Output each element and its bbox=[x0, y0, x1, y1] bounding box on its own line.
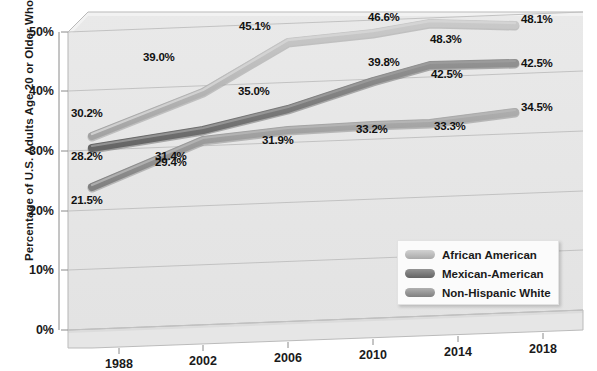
label-ma-2010: 39.8% bbox=[368, 56, 400, 68]
label-ma-2012: 42.5% bbox=[431, 68, 463, 80]
label-ma-2006: 35.0% bbox=[238, 85, 270, 97]
x-tick-2010: 2010 bbox=[343, 348, 403, 362]
label-nw-2002: 29.4% bbox=[155, 156, 187, 168]
x-tick-2002: 2002 bbox=[173, 354, 233, 368]
y-tick-20: 20% bbox=[8, 204, 54, 218]
label-aa-2016: 48.1% bbox=[521, 13, 553, 25]
y-tick-0: 0% bbox=[8, 323, 54, 337]
legend-swatch-african-american bbox=[405, 250, 435, 259]
y-axis-title: Percentage of U.S. Adults Age 20 or Olde… bbox=[23, 11, 35, 261]
x-tick-1988: 1988 bbox=[89, 357, 149, 371]
legend-label-african-american: African American bbox=[442, 249, 537, 261]
legend-swatch-non-hispanic-white bbox=[405, 288, 435, 297]
label-nw-2016: 34.5% bbox=[521, 101, 553, 113]
legend-item-non-hispanic-white[interactable]: Non-Hispanic White bbox=[405, 284, 551, 301]
legend-item-mexican-american[interactable]: Mexican-American bbox=[405, 265, 544, 282]
label-nw-1988: 21.5% bbox=[71, 194, 103, 206]
y-tick-40: 40% bbox=[8, 84, 54, 98]
y-tick-30: 30% bbox=[8, 144, 54, 158]
obesity-trend-chart: Percentage of U.S. Adults Age 20 or Olde… bbox=[0, 0, 597, 371]
label-nw-2010: 33.2% bbox=[356, 123, 388, 135]
label-aa-1988: 30.2% bbox=[71, 107, 103, 119]
label-ma-2016: 42.5% bbox=[521, 57, 553, 69]
chart-canvas bbox=[0, 0, 597, 371]
y-tick-10: 10% bbox=[8, 263, 54, 277]
y-axis-ticks bbox=[59, 32, 68, 330]
legend-label-non-hispanic-white: Non-Hispanic White bbox=[442, 287, 551, 299]
y-tick-50: 50% bbox=[8, 25, 54, 39]
legend: African American Mexican-American Non-Hi… bbox=[397, 240, 559, 305]
legend-item-african-american[interactable]: African American bbox=[405, 246, 537, 263]
label-nw-2006: 31.9% bbox=[262, 134, 294, 146]
legend-swatch-mexican-american bbox=[405, 269, 435, 278]
label-ma-1988: 28.2% bbox=[71, 150, 103, 162]
x-tick-2018: 2018 bbox=[513, 342, 573, 356]
x-tick-2006: 2006 bbox=[258, 351, 318, 365]
legend-label-mexican-american: Mexican-American bbox=[442, 268, 544, 280]
label-aa-2006: 45.1% bbox=[239, 20, 271, 32]
label-aa-2012: 48.3% bbox=[430, 33, 462, 45]
x-tick-2014: 2014 bbox=[428, 345, 488, 359]
label-nw-2012: 33.3% bbox=[434, 120, 466, 132]
label-aa-2002: 39.0% bbox=[143, 51, 175, 63]
label-aa-2010: 46.6% bbox=[368, 11, 400, 23]
